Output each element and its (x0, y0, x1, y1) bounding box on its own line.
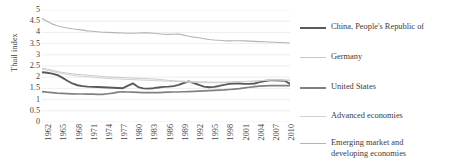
chart-legend: China, People's Republic ofGermanyUnited… (300, 8, 454, 160)
x-axis-tick-labels: 1962196519681971197419771980198319861989… (42, 124, 290, 164)
y-tick-label: 0 (36, 118, 40, 126)
y-axis-tick-labels: 00.511.522.533.544.55 (16, 0, 42, 130)
legend-item[interactable]: United States (300, 82, 376, 93)
legend-item-label: China, People's Republic of (331, 22, 424, 33)
x-tick-label: 1977 (121, 124, 129, 140)
x-tick-label: 2001 (243, 124, 251, 140)
y-tick-label: 3.5 (30, 40, 40, 48)
legend-line-icon (300, 27, 326, 29)
y-tick-label: 5 (36, 6, 40, 14)
legend-item-label: Emerging market and developing economies (331, 138, 406, 159)
x-tick-label: 1992 (197, 124, 205, 140)
series-line (42, 68, 290, 82)
y-tick-label: 1.5 (30, 84, 40, 92)
x-tick-label: 1971 (91, 124, 99, 140)
legend-item-label: Advanced economies (331, 111, 403, 122)
legend-item[interactable]: Advanced economies (300, 111, 403, 122)
legend-item-label: United States (331, 82, 376, 93)
legend-line-icon (300, 143, 326, 144)
gridlines (42, 10, 290, 122)
plot-svg (42, 10, 290, 122)
legend-line-icon (300, 116, 326, 117)
series-line (42, 19, 290, 43)
x-tick-label: 1995 (212, 124, 220, 140)
x-tick-label: 1989 (182, 124, 190, 140)
legend-item[interactable]: Emerging market and developing economies (300, 138, 406, 159)
x-tick-label: 1962 (45, 124, 53, 140)
y-tick-label: 2 (36, 73, 40, 81)
x-tick-label: 1986 (167, 124, 175, 140)
legend-item-label: Germany (331, 52, 362, 63)
x-tick-label: 2007 (273, 124, 281, 140)
legend-item[interactable]: Germany (300, 52, 362, 63)
legend-line-icon (300, 57, 326, 58)
x-tick-label: 2004 (258, 124, 266, 140)
x-tick-label: 1980 (136, 124, 144, 140)
series-lines (42, 19, 290, 95)
legend-line-icon (300, 87, 326, 89)
y-tick-label: 2.5 (30, 62, 40, 70)
x-tick-label: 1968 (76, 124, 84, 140)
y-tick-label: 3 (36, 51, 40, 59)
y-tick-label: 1 (36, 96, 40, 104)
x-tick-label: 1974 (106, 124, 114, 140)
y-tick-label: 0.5 (30, 107, 40, 115)
y-tick-label: 4.5 (30, 17, 40, 25)
y-tick-label: 4 (36, 28, 40, 36)
x-tick-label: 2010 (288, 124, 296, 140)
chart-container: Thail index 00.511.522.533.544.55 196219… (0, 0, 454, 166)
x-tick-label: 1983 (151, 124, 159, 140)
x-tick-label: 1998 (227, 124, 235, 140)
plot-area (42, 10, 290, 122)
legend-item[interactable]: China, People's Republic of (300, 22, 424, 33)
x-tick-label: 1965 (60, 124, 68, 140)
